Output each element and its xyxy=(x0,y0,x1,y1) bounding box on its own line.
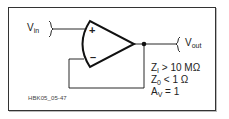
vout-label-main: V xyxy=(185,37,192,48)
vout-label: Vout xyxy=(185,38,201,49)
vin-label: Vin xyxy=(27,23,39,34)
vout-brace xyxy=(176,37,180,52)
vin-brace xyxy=(49,21,53,37)
spec-output-impedance: Z0 < 1 Ω xyxy=(151,75,188,86)
vin-label-sub: in xyxy=(34,27,39,34)
circuit-schematic xyxy=(0,0,229,119)
vin-label-main: V xyxy=(27,22,34,33)
spec-input-impedance: ZI > 10 MΩ xyxy=(151,63,200,74)
figure-id: HBK05_05-47 xyxy=(28,95,67,101)
vout-label-sub: out xyxy=(192,42,202,49)
inverting-input-sign: – xyxy=(90,52,96,63)
non-inverting-input-sign: + xyxy=(89,25,95,36)
spec-voltage-gain: AV = 1 xyxy=(151,87,179,98)
